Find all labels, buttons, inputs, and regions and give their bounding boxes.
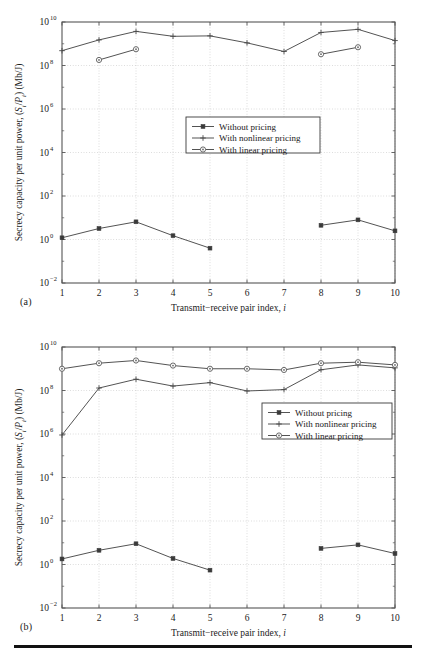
x-tick-label: 3	[134, 613, 139, 623]
y-tick-label: 10	[40, 148, 50, 158]
y-tick-exponent: 6	[50, 426, 54, 433]
x-tick-label: 5	[208, 288, 213, 298]
y-tick-exponent: 10	[50, 14, 57, 21]
y-tick-label: 10	[40, 104, 50, 114]
legend-label: Without pricing	[219, 122, 276, 132]
x-tick-label: 10	[390, 613, 400, 623]
series-marker-dot	[172, 365, 174, 367]
y-tick-label: 10	[40, 235, 50, 245]
x-tick-label: 1	[60, 288, 65, 298]
series-marker	[208, 568, 212, 572]
chart-b-canvas: 12345678910101010810610410210010−2Transm…	[0, 325, 426, 645]
legend-label: With linear pricing	[295, 431, 364, 441]
x-tick-label: 1	[60, 613, 65, 623]
series-marker	[60, 236, 64, 240]
series-marker	[208, 246, 212, 250]
legend-label: With linear pricing	[219, 145, 288, 155]
series-marker-dot	[283, 369, 285, 371]
series-marker	[97, 548, 101, 552]
y-tick-labels: 101010810610410210010−2	[40, 14, 57, 288]
series-marker	[134, 542, 138, 546]
y-axis-title-group: Secrecy capacity per unit power, (Si/Pi)…	[14, 64, 27, 242]
series-marker	[319, 546, 323, 550]
y-axis-title: Secrecy capacity per unit power, (Si/Pi)…	[14, 64, 27, 242]
series-marker	[171, 234, 175, 238]
figure-container: 12345678910101010810610410210010−2Transm…	[0, 0, 426, 653]
subplot-label-a: (a)	[20, 296, 32, 307]
subplot-label-b: (b)	[20, 621, 32, 632]
legend-marker-square	[201, 125, 205, 129]
x-tick-label: 6	[245, 613, 250, 623]
x-tick-label: 8	[319, 613, 324, 623]
y-tick-exponent: 0	[50, 557, 53, 564]
x-tick-label: 3	[134, 288, 139, 298]
y-tick-label: 10	[40, 516, 50, 526]
series-marker-dot	[209, 368, 211, 370]
y-tick-label: 10	[40, 386, 50, 396]
series-marker	[356, 218, 360, 222]
x-tick-label: 6	[245, 288, 250, 298]
y-tick-exponent: −2	[50, 600, 57, 607]
x-tick-label: 9	[356, 288, 361, 298]
series-marker	[60, 557, 64, 561]
series-marker-dot	[320, 53, 322, 55]
series-marker-dot	[135, 360, 137, 362]
series-marker	[393, 552, 397, 556]
x-axis-title: Transmit−receive pair index, i	[171, 303, 286, 313]
y-tick-exponent: 2	[50, 513, 53, 520]
y-tick-exponent: 6	[50, 101, 54, 108]
series-marker-dot	[246, 368, 248, 370]
x-tick-label: 7	[282, 288, 287, 298]
y-tick-label: 10	[40, 342, 50, 352]
legend-label: Without pricing	[295, 408, 352, 418]
chart-a-canvas: 12345678910101010810610410210010−2Transm…	[0, 0, 426, 320]
x-tick-label: 4	[171, 613, 176, 623]
y-tick-exponent: −2	[50, 275, 57, 282]
y-tick-labels: 101010810610410210010−2	[40, 339, 57, 613]
y-tick-label: 10	[40, 61, 50, 71]
y-tick-label: 10	[40, 560, 50, 570]
series-marker-dot	[135, 48, 137, 50]
x-axis-title: Transmit−receive pair index, i	[171, 628, 286, 638]
legend-marker-square	[277, 411, 281, 415]
legend-label: With nonlinear pricing	[219, 133, 301, 143]
plot-background	[62, 347, 395, 608]
series-marker-dot	[61, 368, 63, 370]
series-marker	[97, 227, 101, 231]
series-marker-dot	[394, 364, 396, 366]
x-tick-label: 10	[390, 288, 400, 298]
series-marker-dot	[357, 46, 359, 48]
x-tick-labels: 12345678910	[60, 613, 400, 623]
y-tick-label: 10	[40, 603, 50, 613]
series-marker-dot	[357, 361, 359, 363]
x-tick-label: 8	[319, 288, 324, 298]
legend-label: With nonlinear pricing	[295, 419, 377, 429]
x-tick-label: 2	[97, 613, 102, 623]
legend-marker-circle-dot	[202, 149, 204, 151]
series-marker	[319, 223, 323, 227]
y-axis-title: Secrecy capacity per unit power, (Si/Pi)…	[14, 389, 27, 567]
y-tick-exponent: 4	[50, 470, 54, 477]
y-tick-exponent: 0	[50, 232, 53, 239]
series-marker	[393, 229, 397, 233]
y-tick-label: 10	[40, 17, 50, 27]
series-marker-dot	[320, 362, 322, 364]
x-tick-labels: 12345678910	[60, 288, 400, 298]
x-tick-label: 7	[282, 613, 287, 623]
y-tick-exponent: 4	[50, 145, 54, 152]
y-tick-label: 10	[40, 473, 50, 483]
chart-panel-a: 12345678910101010810610410210010−2Transm…	[0, 0, 426, 320]
y-tick-label: 10	[40, 429, 50, 439]
series-marker-dot	[98, 362, 100, 364]
y-tick-exponent: 8	[50, 58, 53, 65]
y-axis-title-group: Secrecy capacity per unit power, (Si/Pi)…	[14, 389, 27, 567]
y-tick-label: 10	[40, 278, 50, 288]
series-marker-dot	[98, 59, 100, 61]
x-tick-label: 5	[208, 613, 213, 623]
series-marker	[356, 543, 360, 547]
legend-marker-circle-dot	[278, 435, 280, 437]
y-tick-label: 10	[40, 191, 50, 201]
chart-panel-b: 12345678910101010810610410210010−2Transm…	[0, 325, 426, 645]
chart-legend: Without pricingWith nonlinear pricingWit…	[186, 117, 320, 155]
y-tick-exponent: 8	[50, 383, 53, 390]
